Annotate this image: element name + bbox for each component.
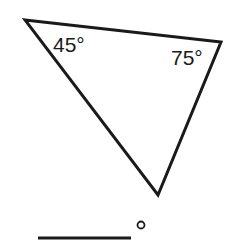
angle-label-top-left: 45° [53, 33, 85, 56]
angle-label-top-right: 75° [171, 46, 203, 69]
triangle-diagram: 45° 75° [0, 0, 232, 251]
degree-symbol-icon [138, 222, 145, 229]
